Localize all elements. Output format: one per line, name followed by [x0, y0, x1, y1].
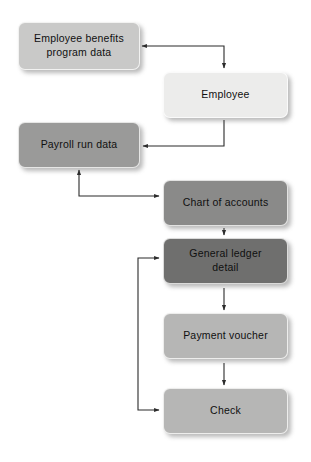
node-payroll-run-data[interactable]: Payroll run data	[18, 122, 140, 168]
node-label: General ledger detail	[189, 247, 261, 275]
node-label: Employee benefits program data	[34, 32, 124, 60]
node-employee-benefits-program-data[interactable]: Employee benefits program data	[18, 22, 140, 70]
node-employee[interactable]: Employee	[163, 72, 288, 118]
flowchart-diagram: Employee benefits program data Employee …	[0, 0, 311, 462]
node-label: Payroll run data	[41, 138, 118, 152]
connector-employee-to-payroll-run-data	[143, 120, 224, 146]
node-label: Check	[210, 404, 241, 418]
connector-employee-to-employee-benefits	[142, 46, 224, 68]
connector-payroll-and-chart-of-accounts	[79, 170, 159, 196]
node-general-ledger-detail[interactable]: General ledger detail	[163, 238, 288, 284]
connector-feedback-loop-general-ledger-check	[138, 258, 159, 410]
node-label: Payment voucher	[183, 329, 268, 343]
node-label: Employee	[201, 88, 249, 102]
node-check[interactable]: Check	[163, 388, 288, 434]
node-chart-of-accounts[interactable]: Chart of accounts	[163, 180, 288, 226]
node-payment-voucher[interactable]: Payment voucher	[163, 313, 288, 359]
node-label: Chart of accounts	[183, 196, 269, 210]
